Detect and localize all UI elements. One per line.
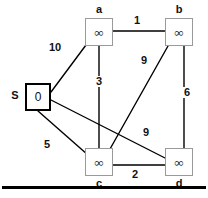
graph-figure: 0 S ∞ a ∞ b ∞ c ∞ d 10 1 3 9 6 9 5 2 [0,0,208,198]
edge-weight-a-c: 3 [95,76,103,87]
edge-weight-s-c: 5 [43,139,51,150]
node-b[interactable]: ∞ [165,18,193,46]
edge-weight-s-d: 9 [142,127,150,138]
node-s[interactable]: 0 [25,83,51,111]
horizontal-rule [2,186,206,189]
node-a-label: a [85,4,113,15]
edge-weight-a-b: 1 [133,15,141,26]
edge-weight-b-c: 9 [140,55,148,66]
node-s-label: S [8,90,22,101]
node-b-label: b [165,4,193,15]
node-d[interactable]: ∞ [165,148,193,176]
node-b-value: ∞ [174,26,183,39]
node-a-value: ∞ [94,26,103,39]
node-d-value: ∞ [174,156,183,169]
node-c-value: ∞ [94,156,103,169]
node-s-value: 0 [35,91,42,103]
node-a[interactable]: ∞ [85,18,113,46]
edge-b-c [110,46,168,149]
edge-weight-s-a: 10 [48,42,62,53]
node-c[interactable]: ∞ [85,148,113,176]
edge-weight-c-d: 2 [131,169,139,180]
edge-weight-b-d: 6 [183,87,191,98]
